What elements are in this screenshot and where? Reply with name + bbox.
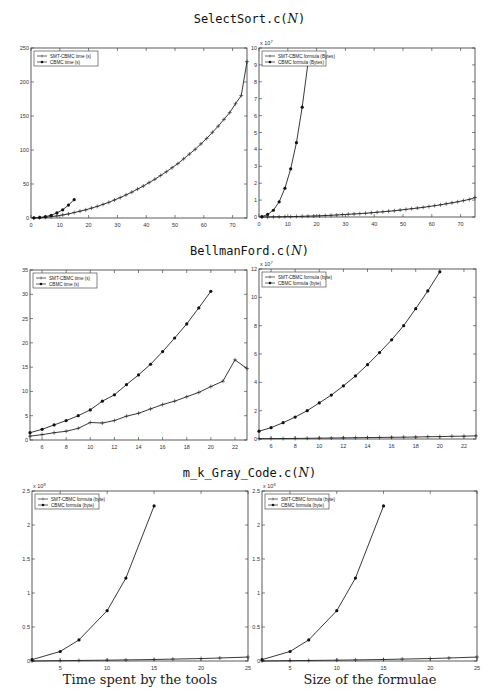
data-point: [125, 383, 128, 386]
y-tick-label: 0: [254, 214, 257, 220]
data-point: [53, 423, 56, 426]
x-tick-label: 22: [232, 444, 238, 450]
y-tick-label: 250: [20, 45, 29, 51]
caption-right: Size of the formulae: [262, 672, 478, 687]
legend-entry: SMT-CBMC formula (byte): [51, 497, 106, 502]
y-tick-label: 0: [25, 437, 28, 443]
data-point: [61, 208, 64, 211]
data-point: [185, 322, 188, 325]
plot-frame: [31, 48, 247, 218]
data-point: [152, 504, 155, 507]
data-point: [283, 187, 286, 190]
x-tick-label: 15: [151, 665, 157, 671]
y-tick-label: 100: [20, 147, 29, 153]
legend-entry: CBMC formula (byte): [51, 503, 95, 508]
data-point: [260, 658, 263, 661]
y-tick-label: 9: [254, 62, 257, 68]
data-point: [301, 106, 304, 109]
y-tick-label: 150: [20, 113, 29, 119]
y-tick-label: 7: [254, 96, 257, 102]
data-point: [354, 576, 357, 579]
data-point: [269, 426, 272, 429]
y-tick-label: 35: [22, 267, 28, 273]
data-point: [318, 401, 321, 404]
data-point: [294, 415, 297, 418]
x-tick-label: 5: [59, 665, 62, 671]
y-tick-label: 25: [22, 316, 28, 322]
data-point: [266, 213, 269, 216]
plot-frame: [259, 48, 475, 217]
x-tick-label: 8: [294, 443, 297, 449]
x-tick-label: 20: [198, 665, 204, 671]
y-tick-label: 1.5: [22, 556, 30, 562]
x-tick-label: 25: [474, 665, 480, 671]
y-tick-label: 10: [251, 45, 257, 51]
x-tick-label: 20: [208, 444, 214, 450]
x-tick-label: 30: [342, 221, 348, 227]
x-tick-label: 20: [314, 221, 320, 227]
data-point: [282, 421, 285, 424]
y-tick-label: 0.5: [22, 624, 30, 630]
y-tick-label: 200: [20, 79, 29, 85]
data-point: [306, 409, 309, 412]
y-tick-label: 0: [254, 436, 257, 442]
y-tick-label: 10: [251, 294, 257, 300]
legend-entry: SMT-CBMC formula (byte): [278, 275, 333, 280]
data-point: [426, 289, 429, 292]
data-point: [382, 504, 385, 507]
x-tick-label: 20: [437, 443, 443, 449]
x-tick-label: 18: [413, 443, 419, 449]
chart-bellmanford-size: 6810121416182022024681012x 107SMT-CBMC f…: [251, 260, 478, 450]
y-tick-label: 0: [26, 215, 29, 221]
x-tick-label: 0: [257, 221, 260, 227]
data-point: [77, 414, 80, 417]
data-point: [295, 141, 298, 144]
legend-entry: CBMC formula (Bytes): [278, 60, 324, 65]
y-tick-label: 0: [27, 658, 30, 664]
data-point: [67, 203, 70, 206]
data-point: [209, 290, 212, 293]
y-tick-label: 5: [25, 413, 28, 419]
x-tick-label: 14: [135, 444, 141, 450]
data-point: [73, 198, 76, 201]
y-tick-label: 30: [22, 291, 28, 297]
x-tick-label: 15: [380, 665, 386, 671]
data-point: [28, 431, 31, 434]
y-tick-label: 6: [254, 113, 257, 119]
x-tick-label: 40: [143, 222, 149, 228]
legend-entry: SMT-CBMC time (s): [50, 54, 92, 59]
x-tick-label: 10: [285, 221, 291, 227]
x-tick-label: 50: [400, 221, 406, 227]
data-point: [402, 324, 405, 327]
x-tick-label: 10: [334, 665, 340, 671]
legend-entry: SMT-CBMC formula (byte): [281, 497, 336, 502]
y-tick-label: 2: [254, 180, 257, 186]
x-tick-label: 10: [57, 222, 63, 228]
x-tick-label: 10: [104, 665, 110, 671]
plot-frame: [32, 491, 248, 661]
data-point: [38, 216, 41, 219]
x-tick-label: 30: [114, 222, 120, 228]
caption-left: Time spent by the tools: [32, 672, 248, 687]
y-tick-label: 8: [254, 323, 257, 329]
data-point: [288, 650, 291, 653]
legend-entry: SMT-CBMC time (s): [49, 276, 91, 281]
x-tick-label: 40: [371, 221, 377, 227]
y-tick-label: 8: [254, 79, 257, 85]
data-point: [378, 351, 381, 354]
y-tick-label: 1: [27, 590, 30, 596]
x-tick-label: 12: [111, 444, 117, 450]
x-tick-label: 20: [427, 665, 433, 671]
x-tick-label: 8: [65, 444, 68, 450]
data-point: [438, 270, 441, 273]
plot-frame: [259, 269, 476, 439]
data-point: [89, 408, 92, 411]
x-tick-label: 12: [340, 443, 346, 449]
data-point: [390, 338, 393, 341]
x-tick-label: 60: [429, 221, 435, 227]
x-tick-label: 50: [172, 222, 178, 228]
legend-entry: CBMC time (s): [49, 282, 80, 287]
data-point: [77, 638, 80, 641]
y-tick-label: 1.5: [252, 556, 260, 562]
y-tick-label: 2: [257, 522, 260, 528]
